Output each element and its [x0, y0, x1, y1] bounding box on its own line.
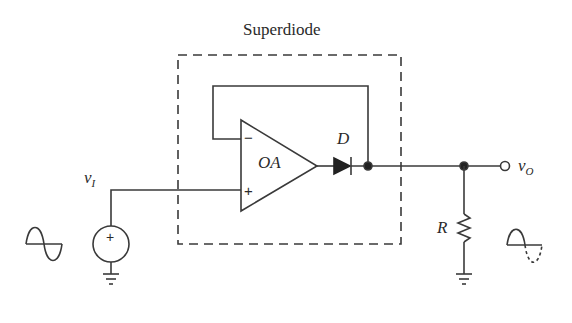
input-voltage-label: vI — [84, 168, 95, 189]
source-plus-sign: + — [106, 230, 114, 244]
input-sine-wave-icon — [26, 228, 62, 261]
output-terminal — [501, 162, 510, 171]
feedback-junction-dot — [364, 162, 372, 170]
opamp-inverting-sign: − — [244, 130, 253, 145]
superdiode-title: Superdiode — [243, 20, 320, 40]
resistor-label: R — [437, 218, 447, 238]
opamp-noninverting-sign: + — [244, 183, 253, 198]
resistor-ground-icon — [456, 274, 472, 284]
source-ground-icon — [103, 274, 119, 284]
diode-label: D — [337, 129, 349, 149]
output-halfwave-icon — [507, 229, 542, 262]
resistor-symbol — [458, 214, 470, 242]
diode-symbol — [334, 158, 350, 174]
superdiode-circuit — [0, 0, 572, 323]
feedback-wire — [213, 86, 368, 166]
opamp-label: OA — [258, 153, 281, 173]
output-voltage-label: vO — [518, 156, 534, 177]
input-wire — [111, 190, 241, 226]
